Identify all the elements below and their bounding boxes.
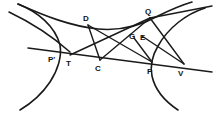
segment-Q-V: [150, 18, 184, 64]
point-label-P: P: [147, 68, 152, 76]
point-label-T: T: [66, 60, 71, 68]
figure-canvas: [0, 0, 223, 115]
point-label-Q: Q: [145, 8, 151, 16]
point-label-V: V: [178, 70, 183, 78]
hyperbola-right-branch: [151, 8, 205, 110]
segment-T-Q: [70, 18, 150, 55]
point-label-E: E: [140, 34, 145, 42]
upper-arc-curve: [18, 2, 192, 29]
point-label-G: G: [129, 33, 135, 41]
hyperbola-figure: P' T C D Q G E P V: [0, 0, 223, 115]
asymptote-upper-right: [150, 6, 212, 18]
point-label-C: C: [95, 65, 101, 73]
secant-line-PTCPV: [28, 48, 212, 72]
point-label-P-prime: P': [48, 56, 55, 64]
point-label-D: D: [83, 15, 89, 23]
